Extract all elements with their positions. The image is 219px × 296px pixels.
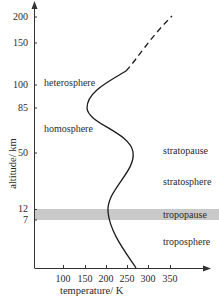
x-tick-label: 200: [99, 274, 114, 284]
x-tick-label: 300: [141, 274, 156, 284]
y-tick-label: 100: [2, 80, 28, 90]
label-troposphere: troposphere: [163, 237, 210, 247]
y-tick-label: 12: [2, 204, 28, 214]
y-axis-label: altitude/ km: [7, 124, 18, 204]
temperature-curve: [87, 71, 136, 268]
x-axis-arrow-icon: [203, 266, 211, 272]
y-tick-label: 200: [2, 12, 28, 22]
y-axis-arrow-icon: [32, 1, 38, 9]
y-tick-label: 7: [2, 215, 28, 225]
y-tick-label: 150: [2, 38, 28, 48]
x-tick-label: 350: [163, 274, 178, 284]
x-tick-label: 100: [56, 274, 71, 284]
label-heterosphere: heterosphere: [44, 78, 95, 88]
x-ticks: [64, 265, 171, 268]
label-homosphere: homosphere: [44, 124, 93, 134]
x-tick-label: 150: [78, 274, 93, 284]
x-axis-label: temperature/ K: [60, 285, 123, 296]
label-tropopause: tropopause: [163, 210, 207, 220]
label-stratopause: stratopause: [163, 146, 208, 156]
label-stratosphere: stratosphere: [163, 177, 211, 187]
x-tick-label: 250: [120, 274, 135, 284]
y-tick-label: 85: [2, 103, 28, 113]
temperature-curve-dashed: [126, 16, 172, 71]
